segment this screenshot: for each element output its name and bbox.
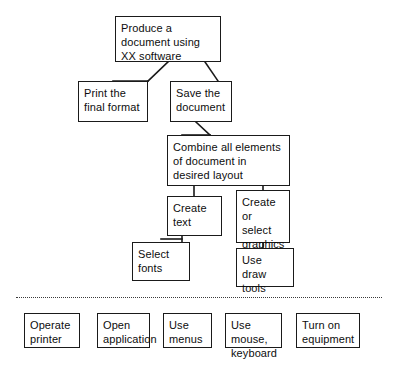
connector-save-to-combine	[196, 122, 210, 135]
node-select-fonts: Select fonts	[132, 242, 190, 281]
node-turn-on-equipment: Turn on equipment	[296, 313, 360, 348]
node-use-mouse-keyboard: Use mouse, keyboard	[225, 313, 282, 348]
node-combine-elements: Combine all elements of document in desi…	[167, 135, 290, 186]
node-print-final-format: Print the final format	[78, 81, 148, 122]
node-create-or-select-graphics: Create or select graphics	[236, 190, 290, 243]
node-open-application: Open application	[97, 313, 150, 348]
dotted-separator	[16, 297, 382, 298]
task-analysis-diagram: Produce a document using XX software Pri…	[0, 0, 395, 370]
node-save-document: Save the document	[170, 81, 232, 122]
node-create-text: Create text	[167, 196, 222, 236]
node-use-draw-tools: Use draw tools	[236, 248, 294, 287]
node-operate-printer: Operate printer	[24, 313, 80, 348]
node-root: Produce a document using XX software	[115, 16, 221, 62]
node-use-menus: Use menus	[163, 313, 212, 348]
connector-root-to-print	[148, 62, 168, 81]
connector-root-to-save	[205, 62, 218, 81]
